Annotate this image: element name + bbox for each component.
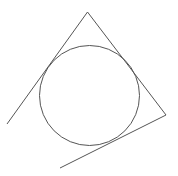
tangent-line-bottom [60,115,166,168]
tangent-line-left [7,12,88,124]
geometry-diagram [0,0,178,176]
tangent-line-right [88,12,167,115]
